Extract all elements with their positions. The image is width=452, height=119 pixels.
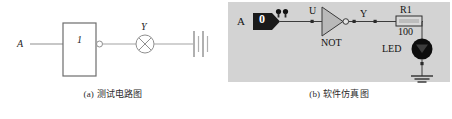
resistor-value-label: 100 xyxy=(398,27,413,37)
source-label-a: A xyxy=(237,16,245,26)
lamp-label-y: Y xyxy=(141,22,147,32)
figure-root: A 1 Y (a) 测试电路图 xyxy=(0,0,452,119)
net-label-u: U xyxy=(309,6,316,16)
panel-simulation: A 0 U NOT Y R1 100 LED (b) 软件仿真图 xyxy=(226,0,452,119)
switch-state-label: 0 xyxy=(259,14,265,24)
panel-test-circuit: A 1 Y (a) 测试电路图 xyxy=(0,0,226,119)
inverter-bubble-icon xyxy=(97,41,103,47)
probe-indicator-1-stem xyxy=(278,14,280,18)
net-node-u xyxy=(311,20,314,23)
probe-indicator-2-icon xyxy=(283,9,288,14)
test-circuit-drawing xyxy=(0,0,226,119)
inverter-box xyxy=(63,23,96,76)
inverter-symbol-label: 1 xyxy=(77,35,82,45)
resistor-band xyxy=(399,19,419,23)
not-gate-bubble-icon xyxy=(343,19,349,25)
net-node-y-left xyxy=(353,20,356,23)
caption-panel-b: (b) 软件仿真图 xyxy=(226,88,452,100)
net-node-cathode xyxy=(420,62,423,65)
input-label-a: A xyxy=(17,39,23,49)
not-gate-label: NOT xyxy=(321,38,342,48)
caption-panel-a: (a) 测试电路图 xyxy=(0,88,226,100)
probe-indicator-2-stem xyxy=(285,14,287,18)
net-label-y: Y xyxy=(360,9,367,19)
probe-indicator-1-icon xyxy=(276,9,281,14)
led-label: LED xyxy=(382,44,401,54)
net-node-y-right xyxy=(374,20,377,23)
resistor-ref-label: R1 xyxy=(400,5,412,15)
